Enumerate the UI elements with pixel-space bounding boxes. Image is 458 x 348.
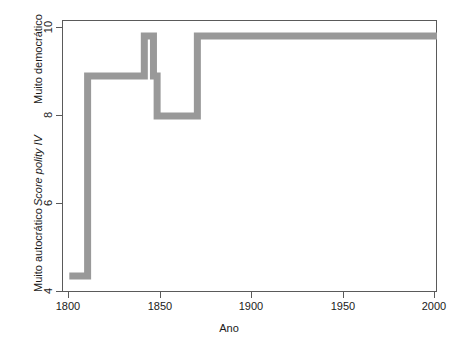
y-tick-4 [56, 291, 62, 292]
y-axis-caption-bottom: Muito autocrático [32, 208, 44, 292]
y-tick-6 [56, 203, 62, 204]
y-tick-label-8: 8 [42, 105, 54, 125]
x-tick-label-2000: 2000 [414, 300, 454, 312]
y-axis-title: Score polity IV [32, 135, 44, 206]
x-tick-label-1850: 1850 [140, 300, 180, 312]
chart-container: 10 8 6 4 1800 1850 1900 1950 2000 Ano Mu… [0, 0, 458, 348]
polity-score-step-line [62, 20, 437, 292]
x-tick-label-1900: 1900 [231, 300, 271, 312]
plot-area [62, 20, 437, 292]
y-tick-8 [56, 115, 62, 116]
x-axis-title: Ano [0, 322, 458, 334]
x-tick-label-1950: 1950 [323, 300, 363, 312]
x-tick-1900 [251, 292, 252, 298]
x-tick-1850 [160, 292, 161, 298]
x-tick-label-1800: 1800 [48, 300, 88, 312]
x-tick-1950 [343, 292, 344, 298]
x-tick-1800 [68, 292, 69, 298]
y-axis-caption-top: Muito democrático [32, 14, 44, 104]
x-tick-2000 [434, 292, 435, 298]
y-tick-10 [56, 27, 62, 28]
